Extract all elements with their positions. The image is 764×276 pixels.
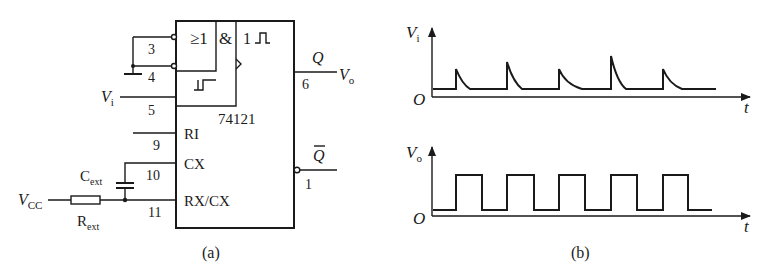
- capacitor-cext: [116, 183, 134, 200]
- junction-dot: [131, 64, 135, 68]
- pin-ri-label: RI: [184, 126, 199, 142]
- vcc-label: VCC: [18, 191, 42, 211]
- cext-label: Cext: [80, 168, 102, 187]
- pin-5-label: 5: [148, 103, 155, 118]
- qbar-output-label: Q: [313, 147, 325, 164]
- pulse-icon: [255, 33, 270, 43]
- vi-waveform-chart: Vi O t: [406, 23, 750, 117]
- pin-cx-label: CX: [184, 156, 205, 172]
- and-gate-symbol: &: [219, 29, 232, 48]
- vo-trace: [433, 175, 712, 210]
- or-gate-symbol: ≥1: [190, 29, 208, 48]
- circuit-74121: ≥1 & 1 3 4 Vi 5 74121 9 RI 10 CX: [18, 21, 355, 262]
- vo-waveform-chart: Vo O t: [406, 143, 750, 236]
- vi-trace: [433, 56, 716, 89]
- inverter-bubble-pin4: [172, 64, 177, 69]
- vi-t-label: t: [744, 98, 750, 117]
- pin-4-label: 4: [148, 70, 155, 85]
- caption-b: (b): [571, 244, 590, 262]
- rext-label: Rext: [77, 213, 99, 232]
- pin-11-label: 11: [148, 205, 161, 220]
- pin-10-label: 10: [146, 168, 160, 183]
- pin-6-label: 6: [302, 77, 309, 92]
- vo-output-label: Vo: [339, 66, 355, 86]
- monostable-symbol: 1: [243, 30, 251, 47]
- resistor-rext: [71, 196, 100, 204]
- vi-origin-label: O: [413, 90, 425, 109]
- inverter-bubble-qbar: [294, 167, 300, 173]
- edge-trigger-icon: [236, 59, 241, 69]
- diagram-canvas: ≥1 & 1 3 4 Vi 5 74121 9 RI 10 CX: [0, 0, 764, 276]
- junction-dot: [123, 198, 127, 202]
- vi-axis-label: Vi: [406, 23, 419, 44]
- pin-9-label: 9: [153, 138, 160, 153]
- pin-3-label: 3: [148, 42, 155, 57]
- vo-axis-label: Vo: [406, 143, 422, 164]
- q-output-label: Q: [312, 49, 324, 66]
- vi-input-label: Vi: [101, 88, 114, 108]
- pin-rxcx-label: RX/CX: [184, 193, 230, 209]
- vo-t-label: t: [744, 217, 750, 236]
- chip-name: 74121: [218, 111, 256, 127]
- schmitt-trigger-icon: [194, 80, 216, 90]
- inverter-bubble-pin3: [172, 35, 177, 40]
- vo-origin-label: O: [413, 209, 425, 228]
- pin-1-label: 1: [305, 177, 312, 192]
- caption-a: (a): [202, 244, 220, 262]
